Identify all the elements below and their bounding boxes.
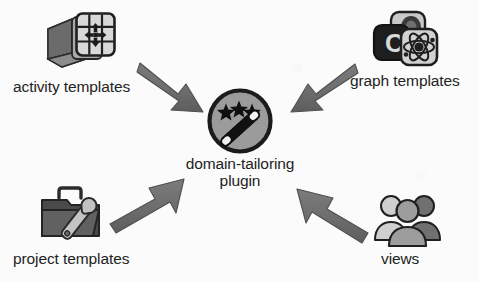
project-templates-label: project templates (13, 250, 129, 267)
arrow-graph-templates-to-plugin (291, 64, 358, 112)
diagram-canvas: domain-tailoring plugin (0, 0, 479, 282)
arrow-views-to-plugin (297, 189, 368, 243)
center-label-line1: domain-tailoring (186, 155, 295, 172)
folder-wrench-icon (37, 186, 117, 248)
graph-templates-label: graph templates (350, 72, 460, 89)
views-label: views (381, 250, 419, 267)
center-label: domain-tailoring plugin (168, 155, 312, 189)
three-users-icon (372, 192, 444, 248)
activity-templates-label: activity templates (13, 78, 130, 95)
grid-window-move-folder-icon (42, 7, 120, 77)
stacked-tiles-atom-icon: C (369, 9, 441, 75)
arrow-activity-templates-to-plugin (137, 63, 203, 112)
magic-wand-stars-circle-icon (205, 86, 275, 156)
center-label-line2: plugin (220, 172, 261, 189)
